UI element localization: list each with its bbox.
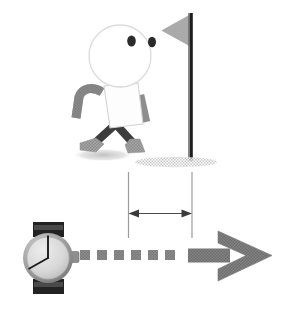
- illustration-canvas: [0, 0, 291, 313]
- figure-torso: [104, 83, 143, 128]
- flag-pole: [190, 13, 193, 161]
- figure-caption: [28, 306, 278, 313]
- figure-shadow: [72, 149, 134, 162]
- timeline-arrow-shaft: [188, 249, 230, 263]
- watch-hands-pivot: [47, 257, 49, 259]
- timeline-dash-4: [131, 250, 141, 260]
- timeline-dash-2: [97, 250, 107, 260]
- figure-eye-left-icon: [127, 36, 136, 47]
- figure-eye-right-icon: [148, 37, 156, 47]
- timeline-dash-5: [148, 250, 158, 260]
- flag-pole-highlight: [188, 13, 189, 161]
- timeline-dash-3: [114, 250, 124, 260]
- timeline-dash-1: [80, 250, 90, 260]
- diagram-svg: [0, 0, 291, 313]
- flag-ground-patch: [135, 157, 217, 167]
- watch-band-top-highlight: [34, 225, 63, 230]
- timeline-dash-6: [165, 250, 175, 260]
- figure-head: [89, 25, 151, 87]
